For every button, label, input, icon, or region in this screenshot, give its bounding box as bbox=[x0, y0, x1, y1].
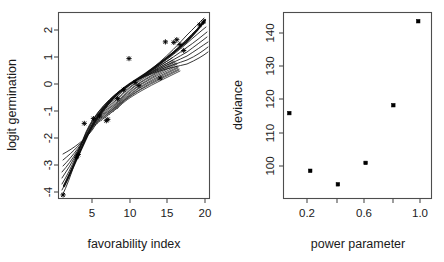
data-point bbox=[115, 96, 120, 101]
data-point bbox=[121, 87, 126, 92]
data-point bbox=[61, 192, 66, 197]
left-xtick-3: 20 bbox=[199, 207, 212, 219]
right-plot-svg: 100 110 120 130 140 0.2 0.6 1.0 po bbox=[222, 0, 444, 262]
left-ytick-2: 0 bbox=[42, 81, 54, 87]
data-point bbox=[177, 42, 182, 47]
right-ytick-2: 120 bbox=[264, 89, 276, 108]
data-point bbox=[136, 83, 141, 88]
right-xaxis-title: power parameter bbox=[311, 237, 406, 251]
right-plot-frame bbox=[284, 13, 432, 199]
data-point bbox=[105, 117, 110, 122]
panel-deviance: 100 110 120 130 140 0.2 0.6 1.0 po bbox=[222, 0, 444, 262]
left-xaxis-title: favorability index bbox=[87, 237, 181, 251]
data-point bbox=[82, 121, 87, 126]
data-point bbox=[97, 113, 102, 118]
data-point bbox=[126, 56, 131, 61]
right-ytick-0: 100 bbox=[264, 156, 276, 175]
data-point bbox=[392, 103, 396, 107]
right-y-ticklabels: 100 110 120 130 140 bbox=[264, 23, 276, 175]
right-ytick-3: 130 bbox=[264, 56, 276, 75]
right-xtick-1: 0.6 bbox=[356, 207, 372, 219]
left-xtick-0: 5 bbox=[89, 207, 95, 219]
data-point bbox=[197, 22, 202, 27]
right-data-points bbox=[288, 19, 421, 186]
left-data-points bbox=[61, 20, 206, 198]
data-point bbox=[201, 20, 206, 25]
left-plot-svg: 2 1 0 -1 -2 -3 -4 5 10 15 20 bbox=[0, 0, 222, 262]
left-y-ticks bbox=[54, 30, 59, 192]
left-xtick-1: 10 bbox=[124, 207, 137, 219]
left-ytick-0: 2 bbox=[42, 27, 54, 33]
left-x-ticks bbox=[92, 199, 205, 204]
left-ytick-6: -4 bbox=[42, 186, 54, 197]
right-x-ticklabels: 0.2 0.6 1.0 bbox=[299, 207, 428, 219]
left-ytick-5: -3 bbox=[42, 160, 54, 170]
data-point bbox=[163, 39, 168, 44]
data-point bbox=[174, 37, 179, 42]
right-ytick-4: 140 bbox=[264, 23, 276, 42]
right-y-ticks bbox=[279, 33, 284, 166]
right-ytick-1: 110 bbox=[264, 124, 276, 142]
left-yaxis-title: logit germination bbox=[5, 59, 19, 151]
right-xtick-2: 1.0 bbox=[412, 207, 428, 219]
right-xtick-0: 0.2 bbox=[299, 207, 315, 219]
data-point bbox=[158, 76, 163, 81]
left-fitted-curve-fan bbox=[62, 18, 208, 196]
data-point bbox=[288, 111, 292, 115]
left-y-ticklabels: 2 1 0 -1 -2 -3 -4 bbox=[42, 27, 54, 197]
left-ytick-1: 1 bbox=[42, 54, 54, 60]
panel-logit-germination: 2 1 0 -1 -2 -3 -4 5 10 15 20 bbox=[0, 0, 222, 262]
data-point bbox=[336, 183, 340, 187]
left-xtick-2: 15 bbox=[161, 207, 174, 219]
right-x-ticks bbox=[307, 199, 420, 204]
left-ytick-4: -2 bbox=[42, 133, 54, 143]
figure-root: 2 1 0 -1 -2 -3 -4 5 10 15 20 bbox=[0, 0, 444, 262]
data-point bbox=[308, 169, 312, 173]
data-point bbox=[416, 19, 420, 23]
right-yaxis-title: deviance bbox=[231, 80, 245, 130]
data-point bbox=[364, 161, 368, 165]
left-ytick-3: -1 bbox=[42, 106, 54, 116]
data-point bbox=[181, 48, 186, 53]
data-point bbox=[76, 152, 81, 157]
data-point bbox=[91, 116, 96, 121]
left-x-ticklabels: 5 10 15 20 bbox=[89, 207, 212, 219]
